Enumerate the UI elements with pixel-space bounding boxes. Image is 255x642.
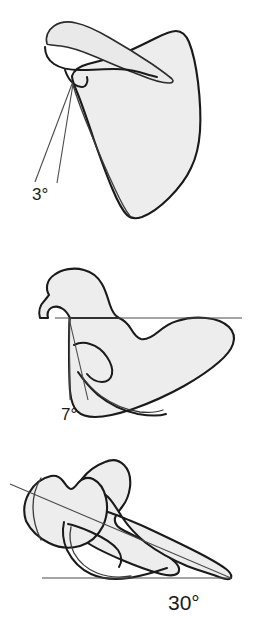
panel-middle-lateral-scapula: 7° — [39, 269, 242, 424]
anatomical-figure: 3° 7° — [0, 0, 255, 642]
scapula-lateral-body-outline — [69, 318, 234, 417]
panel-bottom-axial-scapula: 30° — [10, 460, 231, 614]
scapula-lateral-upper-outline — [39, 269, 119, 318]
panel-top-posterior-scapula: 3° — [32, 22, 200, 218]
angle-label-bottom: 30° — [168, 591, 200, 614]
angle-label-middle: 7° — [61, 405, 77, 424]
scapula-angle-diagram: 3° 7° — [0, 0, 255, 642]
angle-label-top: 3° — [32, 185, 48, 204]
angle-line-a-top — [35, 84, 72, 182]
angle-line-b-top — [57, 84, 73, 183]
